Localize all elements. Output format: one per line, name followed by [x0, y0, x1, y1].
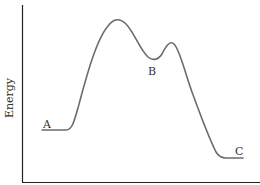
energy-curve: [42, 20, 243, 158]
energy-diagram: Energy A B C: [0, 0, 260, 185]
y-axis-label: Energy: [3, 77, 16, 118]
point-label-b: B: [148, 65, 156, 78]
point-label-a: A: [42, 118, 52, 131]
point-label-c: C: [235, 145, 243, 158]
